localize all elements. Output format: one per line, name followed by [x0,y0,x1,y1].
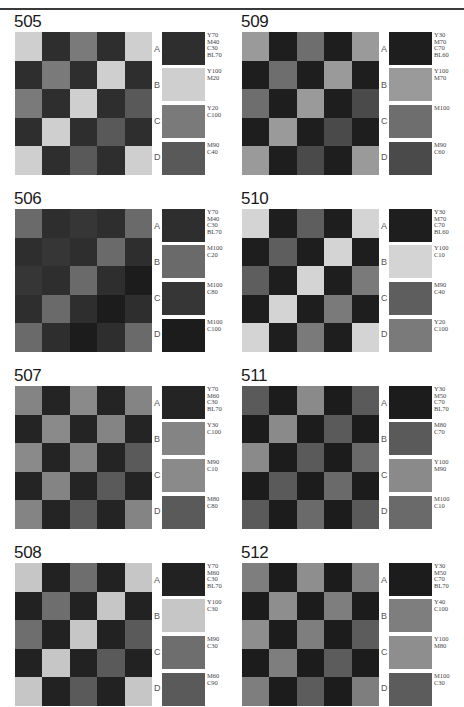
swatch-row-d: M60 C90 [162,673,252,706]
grid-cell-a [242,238,269,267]
ink-mix-label: Y30 M70 C70 BL60 [434,32,449,58]
swatch-row-d: Y20 C100 [389,319,464,352]
grid-cell-b [324,415,351,444]
grid-cell-a [352,649,379,678]
grid-cell-a [352,472,379,501]
grid-cell-a [352,592,379,621]
grid-cell-c [269,592,296,621]
color-swatch [162,319,205,352]
grid-cell-a [297,238,324,267]
grid-cell-d [297,500,324,529]
grid-cell-a [15,118,42,147]
swatch-list: Y30 M70 C70 BL60Y100 M70M100M90 C60 [389,32,464,175]
grid-cell-a [269,209,296,238]
color-swatch [162,459,205,492]
grid-cell-a [70,649,97,678]
grid-cell-b [125,32,152,61]
checker-grid [15,563,152,706]
swatch-row-b: M80 C70 [389,422,464,455]
grid-cell-b [242,500,269,529]
grid-cell-a [42,677,69,706]
swatch-row-c: M90 C40 [389,282,464,315]
color-swatch [162,68,205,101]
grid-cell-c [297,386,324,415]
grid-cell-c [15,89,42,118]
grid-cell-a [42,89,69,118]
grid-cell-a [97,266,124,295]
swatch-row-c: M100 [389,105,464,138]
ink-mix-label: Y30 C100 [207,422,221,435]
grid-cell-b [125,563,152,592]
grid-cell-d [352,443,379,472]
panel-title: 511 [241,367,267,384]
swatch-row-d: M100 C30 [389,673,464,706]
grid-cell-c [70,209,97,238]
grid-cell-a [42,32,69,61]
swatch-list: Y70 M60 C30 BL70Y30 C100M90 C10M80 C80 [162,386,252,529]
swatch-row-a: Y30 M70 C70 BL60 [389,32,464,65]
color-swatch [162,496,205,529]
grid-cell-b [15,386,42,415]
grid-cell-a [15,415,42,444]
swatch-row-a: Y30 M70 C70 BL60 [389,209,464,242]
grid-cell-a [324,443,351,472]
grid-cell-b [125,146,152,175]
grid-cell-b [15,209,42,238]
swatch-row-c: M90 C30 [162,636,252,669]
grid-cell-d [324,472,351,501]
swatch-row-a: Y30 M50 C70 BL70 [389,386,464,419]
grid-cell-b [70,443,97,472]
grid-cell-b [242,146,269,175]
swatch-list: Y70 M40 C30 BL70M100 C20M100 C80M100 C10… [162,209,252,352]
swatch-row-a: Y70 M40 C30 BL70 [162,32,252,65]
ink-mix-label: Y40 C100 [434,599,448,612]
panel-title: 507 [14,367,41,384]
ink-mix-label: Y100 M70 [434,68,448,81]
grid-cell-a [15,61,42,90]
grid-cell-a [297,295,324,324]
swatch-panel-512: 512ABCDY30 M50 C70 BL70Y40 C100Y100 M80M… [241,544,464,707]
grid-cell-b [15,563,42,592]
ink-mix-label: M80 C70 [434,422,446,435]
ink-mix-label: M80 C80 [207,496,219,509]
ink-mix-label: M90 C60 [434,142,446,155]
grid-cell-b [297,266,324,295]
grid-cell-a [242,592,269,621]
grid-cell-b [352,563,379,592]
grid-cell-a [42,323,69,352]
color-swatch [389,142,432,175]
grid-cell-d [297,323,324,352]
ink-mix-label: Y100 M80 [434,636,448,649]
grid-cell-c [269,238,296,267]
grid-cell-a [324,323,351,352]
grid-cell-b [324,592,351,621]
color-swatch [162,563,205,596]
grid-cell-a [125,472,152,501]
grid-cell-a [242,295,269,324]
grid-cell-a [297,118,324,147]
grid-cell-b [125,500,152,529]
color-swatch [162,386,205,419]
swatch-row-c: M100 C80 [162,282,252,315]
grid-cell-a [242,649,269,678]
ink-mix-label: M100 [434,105,450,112]
grid-cell-d [324,649,351,678]
grid-cell-a [297,592,324,621]
grid-cell-b [15,677,42,706]
color-swatch [162,599,205,632]
grid-cell-a [352,415,379,444]
grid-cell-b [97,238,124,267]
grid-cell-a [324,563,351,592]
grid-cell-a [70,118,97,147]
checker-grid [242,209,379,352]
grid-cell-b [97,415,124,444]
grid-cell-a [269,266,296,295]
swatch-row-b: Y100 M20 [162,68,252,101]
color-swatch [162,673,205,706]
ink-mix-label: Y100 C10 [434,245,448,258]
swatch-list: Y30 M70 C70 BL60Y100 C10M90 C40Y20 C100 [389,209,464,352]
grid-cell-a [15,295,42,324]
grid-cell-b [242,209,269,238]
grid-cell-a [324,386,351,415]
swatch-row-d: M90 C60 [389,142,464,175]
